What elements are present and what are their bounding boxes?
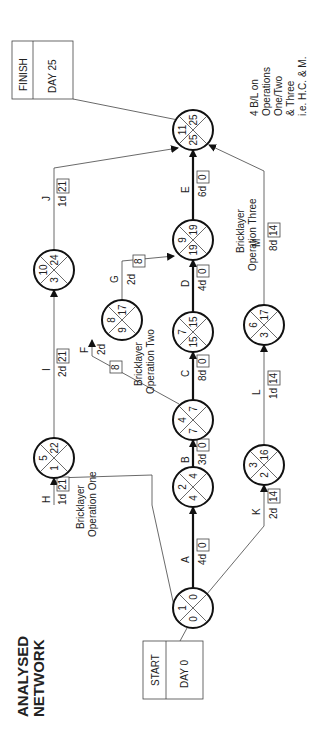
svg-text:J: J: [41, 196, 52, 201]
svg-text:1d: 1d: [57, 196, 68, 207]
svg-text:4d: 4d: [197, 554, 208, 565]
node-7: 7 15 15: [173, 312, 213, 352]
svg-text:21: 21: [57, 350, 68, 362]
svg-text:0: 0: [197, 358, 208, 364]
svg-text:25: 25: [188, 134, 199, 146]
svg-text:E: E: [180, 186, 191, 193]
svg-text:3: 3: [259, 332, 270, 338]
svg-text:8: 8: [106, 317, 117, 323]
svg-text:Bricklayer: Bricklayer: [75, 484, 86, 529]
activity-f-label: F 2d 8: [79, 344, 122, 373]
svg-text:F: F: [79, 347, 90, 353]
node-9: 9 19 19: [173, 220, 213, 260]
svg-text:8d: 8d: [268, 240, 279, 251]
svg-text:14: 14: [268, 490, 279, 502]
svg-text:1d: 1d: [57, 494, 68, 505]
svg-text:17: 17: [117, 304, 128, 316]
svg-text:0: 0: [188, 594, 199, 600]
activity-k-arrow: [207, 485, 264, 594]
svg-text:4 B/L on: 4 B/L on: [249, 79, 260, 116]
node-6: 6 3 17: [244, 305, 284, 345]
svg-text:Operation One: Operation One: [87, 471, 98, 537]
svg-text:14: 14: [268, 224, 279, 236]
start-day: DAY 0: [179, 660, 190, 688]
finish-label: FINISH: [18, 58, 29, 91]
finish-box: FINISH DAY 25: [12, 41, 183, 121]
title-line-1: ANALYSED: [14, 636, 31, 717]
svg-text:4d: 4d: [197, 280, 208, 291]
svg-text:6: 6: [248, 322, 259, 328]
svg-text:16: 16: [259, 449, 270, 461]
analysed-network-diagram: ANALYSED NETWORK START DAY 0 FINISH DAY …: [0, 0, 334, 741]
activity-l-label: L 1d 14: [251, 371, 280, 399]
svg-text:K: K: [251, 508, 262, 515]
svg-text:2: 2: [177, 484, 188, 490]
svg-text:& Three: & Three: [285, 80, 296, 116]
svg-text:15: 15: [188, 336, 199, 348]
svg-text:3d: 3d: [197, 454, 208, 465]
svg-text:3: 3: [49, 277, 60, 283]
svg-text:Bricklayer: Bricklayer: [133, 341, 144, 386]
svg-text:Operations: Operations: [261, 67, 272, 116]
svg-text:19: 19: [188, 244, 199, 256]
svg-text:10: 10: [38, 264, 49, 276]
node-10: 10 3 24: [34, 250, 74, 290]
activity-k-label: K 2d 14: [251, 489, 280, 519]
svg-text:11: 11: [177, 124, 188, 135]
svg-text:D: D: [180, 280, 191, 287]
svg-text:14: 14: [268, 372, 279, 384]
start-box: START DAY 0: [143, 617, 203, 699]
svg-text:Operation Three: Operation Three: [247, 198, 258, 271]
svg-text:1: 1: [177, 605, 188, 611]
svg-text:7: 7: [188, 406, 199, 412]
svg-text:C: C: [180, 370, 191, 377]
activity-h-label: H 1d 21: [41, 477, 69, 505]
svg-text:4: 4: [177, 417, 188, 423]
activity-c-label: C 8d 0: [180, 355, 209, 381]
note-operation-one: Bricklayer Operation One: [75, 471, 98, 537]
svg-text:15: 15: [188, 316, 199, 328]
svg-text:L: L: [251, 389, 262, 395]
node-11: 11 25 25: [173, 110, 213, 150]
svg-text:21: 21: [57, 180, 68, 192]
node-4: 4 7 7: [173, 400, 213, 440]
svg-text:8d: 8d: [197, 370, 208, 381]
svg-text:A: A: [180, 556, 191, 563]
svg-text:H: H: [41, 496, 52, 503]
node-3: 3 2 16: [244, 445, 284, 485]
svg-text:24: 24: [49, 254, 60, 266]
svg-text:0: 0: [197, 268, 208, 274]
activity-g-label: G 2d 8: [109, 255, 145, 285]
svg-text:I: I: [41, 368, 52, 371]
svg-text:7: 7: [188, 428, 199, 434]
svg-text:2d: 2d: [126, 274, 137, 285]
svg-text:22: 22: [49, 442, 60, 454]
node-2: 2 4 4: [173, 467, 213, 507]
activity-b-label: B 3d 0: [180, 439, 209, 465]
svg-text:21: 21: [57, 478, 68, 490]
node-8: 8 9 17: [102, 300, 142, 340]
svg-text:2d: 2d: [268, 508, 279, 519]
start-label: START: [150, 654, 161, 686]
activity-j-label: J 1d 21: [41, 179, 69, 207]
activity-i-label: I 2d 21: [41, 349, 69, 377]
note-operation-two: Bricklayer Operation Two: [133, 329, 156, 394]
svg-text:8: 8: [110, 364, 121, 370]
finish-day: DAY 25: [47, 59, 58, 93]
svg-text:Bricklayer: Bricklayer: [235, 208, 246, 253]
svg-text:9: 9: [177, 237, 188, 243]
svg-text:4: 4: [188, 473, 199, 479]
svg-text:9: 9: [117, 327, 128, 333]
svg-text:7: 7: [177, 329, 188, 335]
activity-e-label: E 6d 0: [180, 171, 209, 197]
diagram-title: ANALYSED NETWORK: [14, 636, 47, 717]
svg-text:0: 0: [188, 616, 199, 622]
svg-text:19: 19: [188, 224, 199, 236]
svg-text:2d: 2d: [57, 366, 68, 377]
svg-text:4: 4: [188, 495, 199, 501]
svg-text:25: 25: [188, 114, 199, 126]
svg-text:B: B: [180, 456, 191, 463]
note-finish: 4 B/L on Operations One/Two & Three i.e.…: [249, 57, 308, 116]
svg-text:i.e. H.C. & M.: i.e. H.C. & M.: [297, 57, 308, 116]
svg-text:5: 5: [38, 455, 49, 461]
